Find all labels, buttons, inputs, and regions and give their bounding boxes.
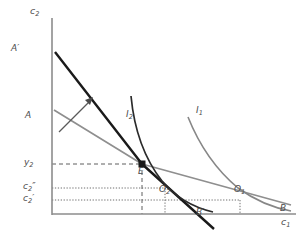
double-prime-glyph: ″: [32, 181, 35, 191]
label-O1: O1: [234, 185, 245, 194]
x-axis-label: c1: [281, 217, 290, 227]
label-O2: O2: [159, 185, 170, 194]
label-B: B: [280, 204, 286, 213]
tick-label-c2-prime: c2′: [23, 194, 34, 203]
label-E: E: [138, 167, 144, 176]
plot-canvas: [0, 0, 300, 231]
y-axis-label: c2: [30, 6, 39, 16]
label-B-prime: B′: [196, 208, 204, 217]
label-I1: I1: [196, 106, 203, 115]
label-I2: I2: [126, 110, 133, 119]
label-A-prime: A′: [11, 44, 19, 53]
indifference-curve-I1: [188, 117, 291, 211]
tick-label-y2: y2: [24, 158, 34, 167]
rotation-arrow-icon: [59, 97, 93, 132]
axes: [52, 18, 296, 215]
budget-line-new: [55, 52, 214, 229]
label-A: A: [25, 111, 31, 120]
tick-label-c2-double-prime: c2″: [23, 182, 36, 191]
guide-lines: [52, 164, 240, 214]
indifference-curve-figure: c2 c1 y2 c2″ c2′ A′ A E O2 O1 B′ B I2 I1: [0, 0, 300, 231]
prime-glyph: ′: [32, 193, 34, 203]
